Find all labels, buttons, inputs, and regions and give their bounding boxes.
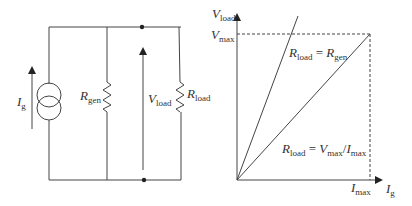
rgen-resistor-icon xyxy=(103,82,111,112)
rload-label: Rload xyxy=(186,86,211,103)
x-axis-label: Ig xyxy=(385,181,395,198)
rgen-label: Rgen xyxy=(79,88,101,105)
vmax-label: Vmax xyxy=(211,27,235,44)
top-terminal-dot xyxy=(140,25,144,29)
graph: Vload Vmax Imax Ig Rload = Rgen Rload = … xyxy=(211,6,395,198)
current-source-icon xyxy=(37,83,61,120)
circuit: Ig Rgen Vload Rload xyxy=(16,25,211,182)
annotation-rload-vmax-imax: Rload = Vmax/Imax xyxy=(281,141,367,158)
diagram-canvas: Ig Rgen Vload Rload Vload Vmax Imax Ig R… xyxy=(0,0,412,206)
y-axis-label: Vload xyxy=(212,6,236,23)
vload-label: Vload xyxy=(148,91,172,108)
rload-wire-top xyxy=(179,27,180,82)
rload-resistor-icon xyxy=(176,82,184,112)
source-label: Ig xyxy=(16,94,26,111)
imax-label: Imax xyxy=(350,180,371,197)
annotation-rload-equals-rgen: Rload = Rgen xyxy=(288,45,348,62)
bottom-terminal-dot xyxy=(142,178,146,182)
